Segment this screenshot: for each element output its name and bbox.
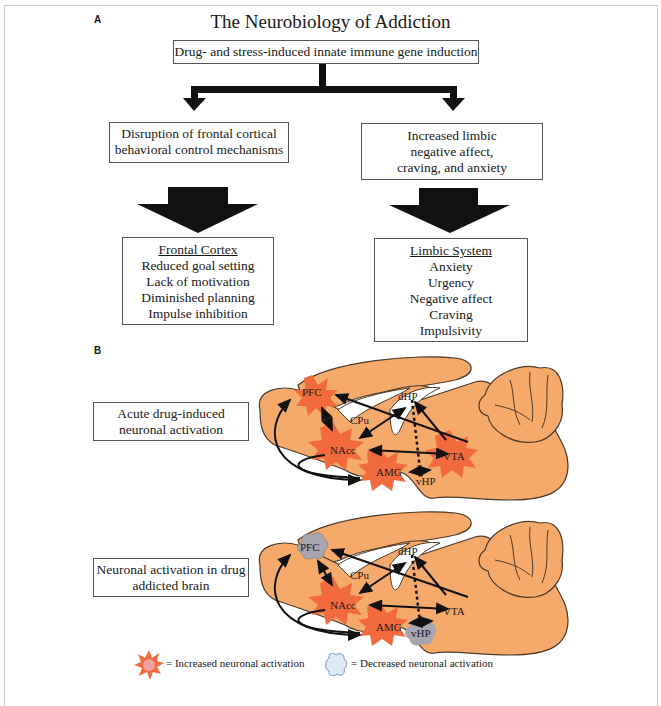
- acute-caption-line-2: neuronal activation: [94, 422, 248, 438]
- right-branch-line-1: Increased limbic: [362, 128, 542, 144]
- addicted-caption-line-2: addicted brain: [94, 578, 248, 594]
- legend-increased-starburst-icon: [134, 650, 164, 680]
- acute-caption-box: Acute drug-induced neuronal activation: [93, 402, 249, 441]
- legend-decreased-text: = Decreased neuronal activation: [351, 657, 493, 669]
- frontal-cortex-box: Frontal Cortex Reduced goal setting Lack…: [122, 237, 274, 325]
- panel-b-label: B: [94, 345, 101, 356]
- dhp-label: dHP: [398, 390, 418, 402]
- limbic-item: Impulsivity: [375, 323, 527, 339]
- frontal-item: Lack of motivation: [123, 274, 273, 290]
- limbic-system-box: Limbic System Anxiety Urgency Negative a…: [374, 238, 528, 342]
- left-branch-line-1: Disruption of frontal cortical: [110, 126, 288, 142]
- right-branch-box: Increased limbic negative affect, cravin…: [361, 123, 543, 180]
- amg-label: AMG: [376, 466, 402, 478]
- amg-label: AMG: [376, 621, 402, 633]
- vta-label: VTA: [443, 450, 465, 462]
- acute-caption-line-1: Acute drug-induced: [94, 406, 248, 422]
- legend-increased-text: = Increased neuronal activation: [166, 657, 304, 669]
- vhp-label: vHP: [411, 627, 431, 639]
- nacc-label: NAcc: [330, 599, 356, 611]
- limbic-item: Negative affect: [375, 291, 527, 307]
- vta-label: VTA: [443, 605, 465, 617]
- right-branch-line-3: craving, and anxiety: [362, 160, 542, 176]
- limbic-item: Urgency: [375, 275, 527, 291]
- frontal-item: Reduced goal setting: [123, 258, 273, 274]
- frontal-item: Diminished planning: [123, 290, 273, 306]
- limbic-item: Anxiety: [375, 259, 527, 275]
- pfc-label: PFC: [302, 386, 322, 398]
- right-branch-line-2: negative affect,: [362, 144, 542, 160]
- limbic-item: Craving: [375, 307, 527, 323]
- legend-decreased-cloud-icon: [324, 652, 348, 678]
- acute-brain-diagram: PFC CPu dHP NAcc AMG vHP VTA: [250, 350, 660, 510]
- pfc-label: PFC: [300, 541, 320, 553]
- vhp-label: vHP: [416, 475, 436, 487]
- left-branch-line-2: behavioral control mechanisms: [110, 142, 288, 158]
- branch-arrows: [0, 0, 661, 240]
- limbic-system-header: Limbic System: [375, 243, 527, 259]
- cpu-label: CPu: [350, 414, 369, 426]
- addicted-brain-diagram: PFC CPu dHP NAcc AMG vHP VTA: [250, 505, 660, 665]
- dhp-label: dHP: [398, 545, 418, 557]
- nacc-label: NAcc: [330, 444, 356, 456]
- cpu-label: CPu: [350, 569, 369, 581]
- frontal-cortex-header: Frontal Cortex: [123, 242, 273, 258]
- frontal-item: Impulse inhibition: [123, 306, 273, 322]
- left-branch-box: Disruption of frontal cortical behaviora…: [109, 122, 289, 163]
- addicted-caption-box: Neuronal activation in drug addicted bra…: [93, 558, 249, 597]
- addicted-caption-line-1: Neuronal activation in drug: [94, 562, 248, 578]
